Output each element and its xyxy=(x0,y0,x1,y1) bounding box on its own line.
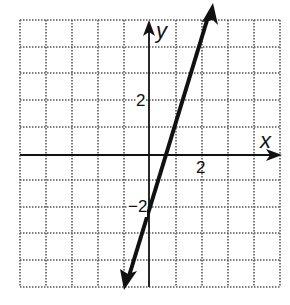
arrowhead-top xyxy=(202,3,218,25)
coordinate-plane xyxy=(0,0,290,305)
y-tick-label-neg2: −2 xyxy=(128,197,147,217)
y-tick-label-2: 2 xyxy=(136,91,145,111)
grid xyxy=(20,20,280,287)
plotted-line xyxy=(120,3,218,290)
y-axis-label: y xyxy=(156,18,167,44)
x-axis-label: x xyxy=(260,128,271,154)
axes xyxy=(20,20,282,287)
x-tick-label-2: 2 xyxy=(196,158,205,178)
